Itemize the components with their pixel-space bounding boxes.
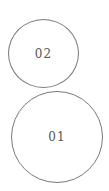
- node-02[interactable]: 02: [8, 19, 79, 88]
- node-01[interactable]: 01: [11, 91, 103, 183]
- node-label: 02: [35, 47, 52, 61]
- node-label: 01: [48, 130, 65, 144]
